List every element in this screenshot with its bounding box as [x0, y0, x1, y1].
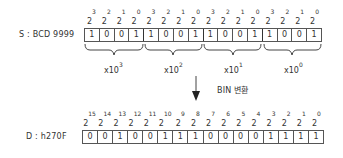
bit-cell: 1 — [173, 131, 188, 143]
bit-cell: 1 — [188, 131, 203, 143]
brace-icon — [145, 44, 202, 55]
arrow-down-icon — [192, 91, 200, 101]
bit-weight: 28 — [188, 112, 203, 126]
group-multiplier: x102 — [164, 63, 183, 75]
brace-icon — [264, 44, 321, 55]
bit-cell: 1 — [294, 131, 309, 143]
bit-weight: 25 — [233, 112, 248, 126]
bit-weight: 213 — [112, 112, 127, 126]
bit-cell: 0 — [204, 131, 219, 143]
bit-weight: 215 — [82, 112, 97, 126]
dest-register: 0 0 1 0 0 1 1 1 0 0 0 0 1 1 1 1 — [82, 130, 324, 144]
bit-weight: 21 — [294, 112, 309, 126]
bit-weight: 27 — [203, 112, 218, 126]
bit-cell: 0 — [128, 131, 143, 143]
bit-cell: 1 — [158, 131, 173, 143]
bit-cell: 0 — [219, 131, 234, 143]
bit-cell: 1 — [264, 131, 279, 143]
bit-cell: 0 — [143, 131, 158, 143]
bit-weight: 23 — [264, 112, 279, 126]
bit-cell: 1 — [279, 131, 294, 143]
bit-weight: 20 — [309, 112, 324, 126]
group-multiplier: x100 — [284, 63, 303, 75]
dest-label: D : h270F — [26, 132, 67, 141]
bit-cell: 0 — [98, 131, 113, 143]
conversion-label: BIN 변환 — [217, 84, 249, 95]
bit-weight: 214 — [97, 112, 112, 126]
bit-cell: 0 — [249, 131, 264, 143]
group-multiplier: x103 — [104, 63, 123, 75]
group-multiplier: x101 — [224, 63, 243, 75]
bit-weight: 211 — [143, 112, 158, 126]
bit-weight: 212 — [127, 112, 142, 126]
bit-weight: 29 — [173, 112, 188, 126]
brace-icon — [204, 44, 261, 55]
brace-icon — [85, 44, 143, 55]
bit-cell: 0 — [234, 131, 249, 143]
bit-weight: 22 — [279, 112, 294, 126]
dest-bit-weights: 215 214 213 212 211 210 29 28 27 26 25 2… — [82, 112, 324, 126]
bit-cell: 1 — [113, 131, 128, 143]
bit-weight: 26 — [218, 112, 233, 126]
bit-cell: 1 — [309, 131, 323, 143]
bit-weight: 24 — [248, 112, 263, 126]
bit-weight: 210 — [158, 112, 173, 126]
bit-cell: 0 — [83, 131, 98, 143]
